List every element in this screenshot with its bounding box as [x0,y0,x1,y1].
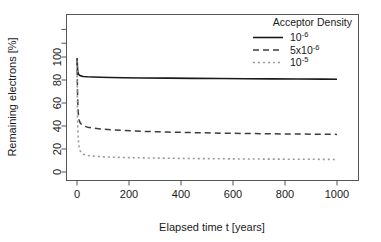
y-axis-tick-label: 80 [51,74,63,86]
legend-label-exponent-3: -5 [302,55,309,64]
x-axis-tick-label: 200 [120,188,138,200]
y-axis-tick-label: 0 [51,169,63,175]
y-axis-title: Remaining electrons [%] [6,37,18,156]
legend-title: Acceptor Density [273,16,353,28]
legend-label-exponent-1: -6 [302,30,309,39]
line-chart: 020406080100 02004006008001000 Acceptor … [0,0,381,242]
y-axis-tick-label: 40 [51,120,63,132]
x-axis-tick-label: 600 [224,188,242,200]
x-axis-tick-label: 800 [276,188,294,200]
x-axis-tick-label: 1000 [325,188,349,200]
y-axis-tick-label: 20 [51,143,63,155]
y-axis-tick-label: 60 [51,97,63,109]
x-axis-tick-label: 0 [74,188,80,200]
chart-figure: 020406080100 02004006008001000 Acceptor … [0,0,381,242]
legend-label-exponent-2: -6 [313,43,320,52]
y-axis-tick-label: 100 [51,48,63,66]
x-axis-title: Elapsed time t [years] [159,221,265,233]
x-axis-tick-label: 400 [172,188,190,200]
